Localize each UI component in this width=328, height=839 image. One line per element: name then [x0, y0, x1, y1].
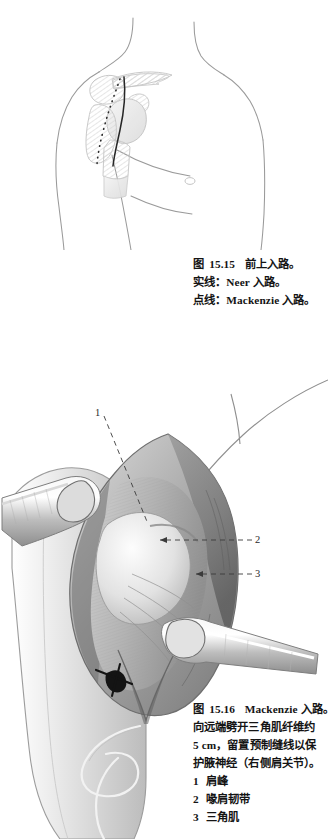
- caption-15-15-dotted-line-note: 点线：Mackenzie 入路。: [193, 291, 328, 309]
- figure-15-15-caption: 图15.15前上入路。 实线：Neer 入路。 点线：Mackenzie 入路。: [193, 255, 328, 309]
- caption-15-16-body-line-3: 护腋神经（右侧肩关节）。: [193, 754, 328, 772]
- caption-15-16-figure-word: 图: [193, 703, 204, 715]
- caption-15-16-title-line: 图15.16Mackenzie 入路。: [193, 700, 328, 718]
- patient-body-contour: [192, 380, 328, 490]
- figure-15-15-illustration: [0, 0, 328, 250]
- legend-item-1: 1 肩峰: [193, 772, 328, 790]
- legend-index-2: 2: [193, 790, 206, 808]
- caption-15-16-body-line-1: 向远端劈开三角肌纤维约: [193, 718, 328, 736]
- caption-15-15-solid-line-note: 实线：Neer 入路。: [193, 273, 328, 291]
- figure-15-16-legend: 1 肩峰 2 喙肩韧带 3 三角肌: [193, 772, 328, 826]
- legend-index-1: 1: [193, 772, 206, 790]
- textbook-page: 图15.15前上入路。 实线：Neer 入路。 点线：Mackenzie 入路。: [0, 0, 328, 839]
- caption-15-16-title: Mackenzie 入路。: [245, 703, 328, 715]
- skeleton-ghost: [86, 72, 172, 198]
- callout-number-3: 3: [255, 568, 260, 579]
- legend-label-2: 喙肩韧带: [206, 790, 250, 808]
- legend-item-2: 2 喙肩韧带: [193, 790, 328, 808]
- caption-15-15-number: 15.15: [209, 258, 235, 270]
- caption-15-15-figure-word: 图: [193, 258, 204, 270]
- figure-15-16-caption: 图15.16Mackenzie 入路。 向远端劈开三角肌纤维约 5 cm，留置预…: [193, 700, 328, 826]
- caption-15-16-body-line-2: 5 cm，留置预制缝线以保: [193, 736, 328, 754]
- legend-label-1: 肩峰: [206, 772, 228, 790]
- legend-index-3: 3: [193, 808, 206, 826]
- callout-number-2: 2: [255, 534, 260, 545]
- legend-label-3: 三角肌: [206, 808, 239, 826]
- caption-15-15-title-line: 图15.15前上入路。: [193, 255, 328, 273]
- caption-15-16-number: 15.16: [209, 703, 235, 715]
- nipple-marking: [185, 178, 195, 185]
- caption-15-15-title: 前上入路。: [245, 258, 301, 270]
- callout-number-1: 1: [95, 407, 100, 418]
- legend-item-3: 3 三角肌: [193, 808, 328, 826]
